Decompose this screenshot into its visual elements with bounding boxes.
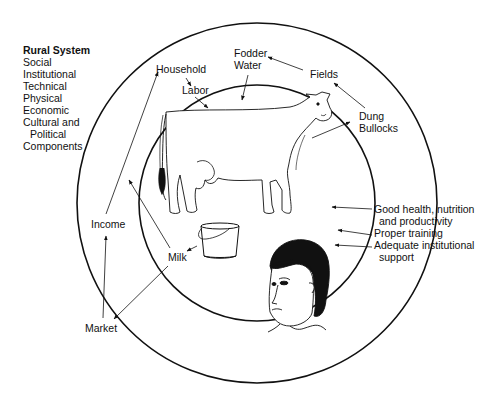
label-bullocks: Bullocks <box>359 122 398 134</box>
legend-item: Cultural and <box>23 116 90 128</box>
arrow-proper-training <box>338 230 372 235</box>
legend-item: Components <box>23 140 90 152</box>
rural-system-legend: Rural System Social Institutional Techni… <box>23 44 90 152</box>
label-household: Household <box>156 63 206 75</box>
legend-item: Technical <box>23 80 90 92</box>
label-income: Income <box>91 218 125 230</box>
label-labor: Labor <box>182 84 209 96</box>
label-adequate-support: Adequate institutional <box>374 239 474 251</box>
arrow-milk-market <box>114 266 168 319</box>
label-dung: Dung <box>359 110 384 122</box>
label-good-health: Good health, nutrition <box>374 203 474 215</box>
label-fields: Fields <box>310 68 338 80</box>
woman-face-illustration <box>268 240 329 332</box>
arrow-fields-fodder <box>268 57 303 70</box>
cow-illustration <box>159 92 332 214</box>
legend-item: Social <box>23 56 90 68</box>
label-market: Market <box>85 322 117 334</box>
label-milk: Milk <box>168 251 187 263</box>
milk-bucket-illustration <box>199 223 239 258</box>
label-proper-training: Proper training <box>374 227 443 239</box>
flow-arrows <box>103 57 372 319</box>
legend-item: Institutional <box>23 68 90 80</box>
label-water: Water <box>234 59 262 71</box>
label-adequate-support-cont: support <box>379 251 414 263</box>
arrow-market-income <box>103 236 106 318</box>
legend-item: Political <box>23 128 90 140</box>
arrow-bucket-milk <box>187 246 197 251</box>
arrow-dung-fields <box>334 83 365 108</box>
arrow-water-cow <box>242 75 248 100</box>
label-fodder: Fodder <box>234 47 267 59</box>
arrow-good-health <box>332 207 372 209</box>
legend-item: Physical <box>23 92 90 104</box>
arrow-cow-dung <box>312 122 350 138</box>
legend-title: Rural System <box>23 44 90 56</box>
legend-item: Economic <box>23 104 90 116</box>
label-good-health-cont: and productivity <box>379 215 453 227</box>
